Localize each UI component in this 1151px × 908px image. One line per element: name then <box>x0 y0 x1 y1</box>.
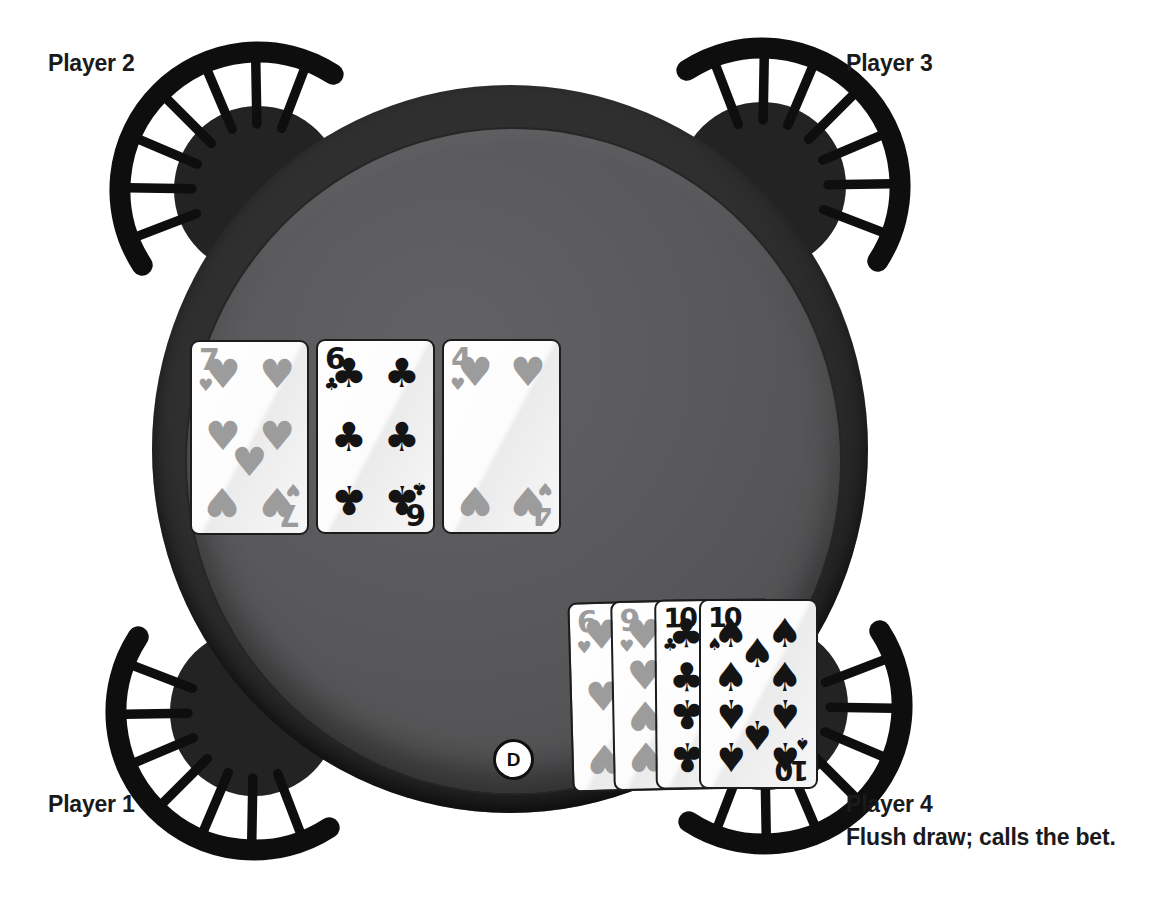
card-4-hearts: 4♥4♥♥♥♥♥ <box>442 339 561 534</box>
player4-label: Player 4 Flush draw; calls the bet. <box>846 788 1116 853</box>
heart-pip-icon: ♥ <box>457 481 493 521</box>
heart-pip-icon: ♥ <box>510 352 546 392</box>
heart-pip-icon: ♥ <box>205 354 241 394</box>
card-7-hearts: 7♥7♥♥♥♥♥♥♥♥ <box>190 340 309 535</box>
player4-note: Flush draw; calls the bet. <box>846 821 1116 854</box>
spade-pip-icon: ♠ <box>713 737 749 777</box>
heart-pip-icon: ♥ <box>204 482 240 522</box>
heart-pip-icon: ♥ <box>232 442 268 482</box>
club-pip-icon: ♣ <box>331 353 367 393</box>
player2-label: Player 2 <box>48 47 135 80</box>
heart-pip-icon: ♥ <box>259 482 295 522</box>
player4-name: Player 4 <box>846 788 1116 821</box>
heart-pip-icon: ♥ <box>259 354 295 394</box>
heart-pip-icon: ♥ <box>457 352 493 392</box>
player2-name: Player 2 <box>48 47 135 80</box>
card-10-spades: 10♠10♠♠♠♠♠♠♠♠♠♠♠ <box>699 599 818 789</box>
club-pip-icon: ♣ <box>331 480 367 520</box>
club-pip-icon: ♣ <box>384 353 420 393</box>
player3-name: Player 3 <box>846 47 933 80</box>
heart-pip-icon: ♥ <box>510 481 546 521</box>
spade-pip-icon: ♠ <box>767 737 803 777</box>
player1-label: Player 1 <box>48 788 135 821</box>
player1-name: Player 1 <box>48 788 135 821</box>
dealer-button-label: D <box>507 749 521 771</box>
club-pip-icon: ♣ <box>331 417 367 457</box>
player3-label: Player 3 <box>846 47 933 80</box>
poker-table-illustration: 7♥7♥♥♥♥♥♥♥♥6♣6♣♣♣♣♣♣♣4♥4♥♥♥♥♥ 6♥6♥♥♥♥♥♥♥… <box>0 0 1151 908</box>
club-pip-icon: ♣ <box>384 417 420 457</box>
card-6-clubs: 6♣6♣♣♣♣♣♣♣ <box>316 339 435 534</box>
club-pip-icon: ♣ <box>384 480 420 520</box>
dealer-button: D <box>493 739 534 780</box>
